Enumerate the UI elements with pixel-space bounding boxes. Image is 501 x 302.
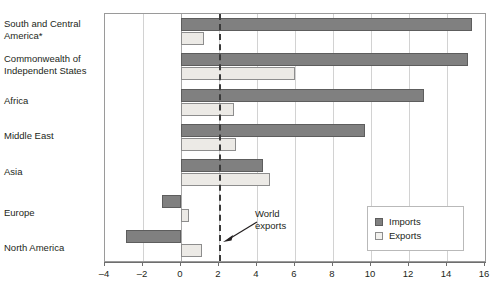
gridline	[143, 14, 144, 261]
annotation-line1: World	[255, 208, 286, 220]
category-label-line2: Independent States	[4, 65, 102, 77]
x-tick	[332, 262, 333, 266]
x-tick	[370, 262, 371, 266]
category-label-line1: Africa	[4, 95, 102, 107]
x-tick-label: –2	[137, 268, 148, 279]
category-label-line1: Commonwealth of	[4, 53, 102, 65]
x-tick-label: 16	[479, 268, 490, 279]
category-label-line1: Middle East	[4, 130, 102, 142]
bar-exports-0	[181, 32, 204, 45]
x-tick-label: –4	[99, 268, 110, 279]
bar-exports-3	[181, 138, 236, 151]
category-label-south-and-central-america: South and Central America*	[4, 18, 102, 41]
legend-item-exports[interactable]: Exports	[375, 230, 456, 241]
annotation-line2: exports	[255, 220, 286, 232]
x-tick-label: 4	[253, 268, 258, 279]
x-tick-label: 10	[365, 268, 376, 279]
x-tick	[180, 262, 181, 266]
x-tick	[104, 262, 105, 266]
category-label-asia: Asia	[4, 166, 102, 178]
x-tick	[142, 262, 143, 266]
gridline	[295, 14, 296, 261]
world-exports-annotation: World exports	[255, 208, 286, 231]
bar-imports-0	[181, 18, 472, 31]
bar-imports-2	[181, 89, 424, 102]
bar-exports-2	[181, 103, 234, 116]
bar-imports-5	[162, 195, 181, 208]
bar-exports-5	[181, 209, 189, 222]
bar-imports-3	[181, 124, 365, 137]
x-tick	[218, 262, 219, 266]
x-tick-label: 12	[403, 268, 414, 279]
x-tick	[446, 262, 447, 266]
legend-label-imports: Imports	[389, 216, 421, 227]
chart-figure: South and Central America* Commonwealth …	[0, 0, 501, 302]
x-tick-label: 14	[441, 268, 452, 279]
x-tick-label: 0	[177, 268, 182, 279]
x-tick-label: 2	[215, 268, 220, 279]
x-axis	[104, 262, 486, 263]
category-label-line1: North America	[4, 242, 102, 254]
x-tick-label: 6	[291, 268, 296, 279]
x-tick	[408, 262, 409, 266]
category-label-line1: Europe	[4, 207, 102, 219]
chart-legend: Imports Exports	[367, 206, 464, 251]
category-label-line1: Asia	[4, 166, 102, 178]
category-label-north-america: North America	[4, 242, 102, 254]
bar-exports-1	[181, 67, 295, 80]
legend-label-exports: Exports	[389, 230, 421, 241]
category-label-line1: South and Central	[4, 18, 102, 30]
bar-exports-6	[181, 244, 202, 257]
bar-imports-4	[181, 159, 263, 172]
x-tick	[484, 262, 485, 266]
category-label-africa: Africa	[4, 95, 102, 107]
category-label-commonwealth-of-independent-states: Commonwealth of Independent States	[4, 53, 102, 76]
category-label-line2: America*	[4, 30, 102, 42]
reference-line-world-exports	[219, 14, 221, 261]
x-tick-label: 8	[329, 268, 334, 279]
legend-swatch-exports-icon	[375, 232, 383, 240]
legend-item-imports[interactable]: Imports	[375, 216, 456, 227]
category-label-europe: Europe	[4, 207, 102, 219]
annotation-arrow-icon	[222, 221, 258, 243]
bar-exports-4	[181, 173, 270, 186]
legend-swatch-imports-icon	[375, 218, 383, 226]
bar-imports-1	[181, 53, 468, 66]
bar-imports-6	[126, 230, 181, 243]
x-tick	[256, 262, 257, 266]
x-tick	[294, 262, 295, 266]
category-label-middle-east: Middle East	[4, 130, 102, 142]
gridline	[333, 14, 334, 261]
